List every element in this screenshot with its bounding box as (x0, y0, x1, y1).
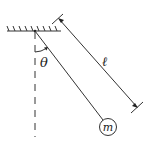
length-label: ℓ (102, 54, 108, 69)
mass-label: m (103, 121, 113, 134)
angle-label: θ (40, 55, 48, 70)
length-dimension (52, 14, 143, 113)
pendulum-diagram: θ m ℓ (0, 0, 155, 146)
pendulum-string (35, 31, 103, 120)
length-arrow-top (58, 18, 64, 23)
length-arrow-bottom (132, 103, 138, 108)
angle-arc (35, 47, 48, 52)
